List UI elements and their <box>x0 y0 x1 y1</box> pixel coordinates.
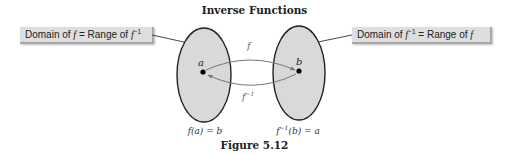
f-inverse-of-b-equation: f−1(b) = a <box>258 126 338 136</box>
f-inverse-arrow-label: f−1 <box>242 91 254 102</box>
point-b <box>296 68 301 73</box>
point-b-label: b <box>296 56 302 67</box>
inverse-function-diagram <box>0 0 509 154</box>
point-a-label: a <box>198 57 204 68</box>
domain-set-ellipse <box>177 28 231 122</box>
figure-caption: Figure 5.12 <box>0 139 509 151</box>
point-a <box>200 69 205 74</box>
f-of-a-equation: f(a) = b <box>165 126 245 136</box>
f-arrow-label: f <box>247 40 251 51</box>
